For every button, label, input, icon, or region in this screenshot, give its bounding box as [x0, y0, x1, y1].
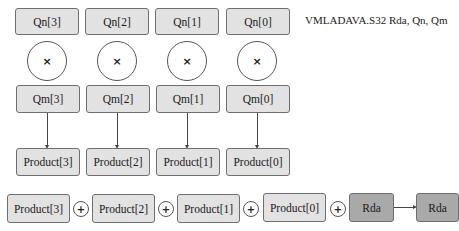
product-1-box: Product[1]: [156, 148, 220, 176]
plus-icon: +: [158, 201, 174, 217]
sum-product-3-box: Product[3]: [7, 194, 70, 223]
result-arrow-line: [394, 207, 414, 208]
qm-0-box: Qm[0]: [226, 85, 290, 113]
qn-1-box: Qn[1]: [155, 8, 219, 35]
product-3-box: Product[3]: [16, 148, 80, 176]
multiply-icon: ×: [97, 41, 137, 81]
qm-1-box: Qm[1]: [156, 85, 220, 113]
qm-3-box: Qm[3]: [16, 85, 80, 113]
plus-icon: +: [330, 201, 346, 217]
arrow-line: [257, 113, 258, 146]
product-0-box: Product[0]: [226, 148, 290, 176]
plus-icon: +: [243, 201, 259, 217]
instruction-label: VMLADAVA.S32 Rda, Qn, Qm: [305, 14, 448, 26]
arrow-line: [117, 113, 118, 146]
sum-product-1-box: Product[1]: [177, 194, 240, 223]
plus-icon: +: [73, 201, 89, 217]
rda-input-box: Rda: [349, 193, 394, 222]
sum-product-2-box: Product[2]: [92, 194, 155, 223]
product-2-box: Product[2]: [86, 148, 150, 176]
qn-2-box: Qn[2]: [85, 8, 149, 35]
arrow-line: [187, 113, 188, 146]
multiply-icon: ×: [237, 41, 277, 81]
arrow-line: [47, 113, 48, 146]
qn-3-box: Qn[3]: [15, 8, 79, 35]
qm-2-box: Qm[2]: [86, 85, 150, 113]
rda-result-box: Rda: [416, 193, 459, 222]
qn-0-box: Qn[0]: [226, 8, 290, 35]
multiply-icon: ×: [167, 41, 207, 81]
multiply-icon: ×: [27, 41, 67, 81]
sum-product-0-box: Product[0]: [263, 193, 326, 222]
